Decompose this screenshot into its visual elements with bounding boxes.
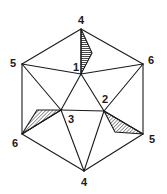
edge	[84, 134, 143, 171]
vertex-label-inner-3: 3	[68, 113, 74, 125]
edge	[104, 64, 143, 111]
vertex-label-inner-1: 1	[73, 61, 79, 73]
vertex-label-upper-right: 6	[148, 54, 154, 66]
vertex-label-inner-2: 2	[102, 93, 108, 105]
edge	[22, 64, 61, 110]
hatched-flap-top	[81, 29, 92, 74]
vertex-label-lower-right: 5	[149, 133, 155, 145]
edge	[81, 29, 143, 64]
edge	[81, 74, 104, 111]
vertex-label-top: 4	[78, 14, 85, 26]
icosahedron-diagram: 4 5 6 6 5 4 1 2 3	[0, 0, 167, 194]
edge	[61, 74, 81, 110]
edge	[61, 110, 104, 111]
edge	[22, 29, 81, 64]
edge	[22, 134, 84, 171]
vertex-label-lower-left: 6	[12, 137, 18, 149]
vertex-label-upper-left: 5	[10, 57, 16, 69]
edge	[81, 64, 143, 74]
edge	[84, 111, 104, 171]
vertex-label-bottom: 4	[81, 176, 88, 188]
